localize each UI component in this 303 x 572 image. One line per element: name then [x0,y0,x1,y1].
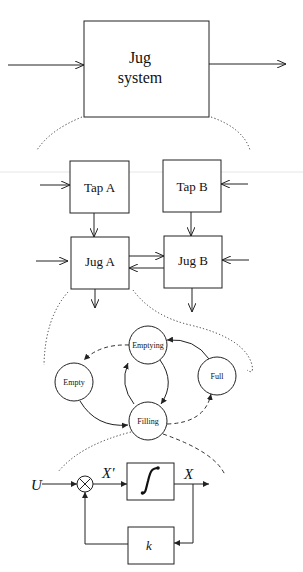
tap-a-label: Tap A [84,180,116,195]
state-filling-label: Filling [137,417,158,426]
k-to-sum-arrow [85,492,128,544]
level-3-state-machine: Emptying Empty Full Filling [55,326,236,440]
state-emptying-label: Emptying [132,341,164,350]
level-2-components: Tap A Tap B Jug A Jug B [36,160,249,312]
zoom-bracket-2-left [44,292,68,365]
emptying-to-filling-transition [160,360,168,404]
filling-to-emptying-transition [125,363,134,404]
gain-k-label: k [146,538,152,553]
zoom-bracket-3-left [58,432,131,472]
level-1-jug-system: Jug system [8,21,286,117]
integrator-block [127,463,174,500]
state-full-label: Full [211,372,225,381]
jug-a-label: Jug A [85,254,116,269]
hierarchical-jug-diagram: Jug system Tap A Tap B Jug A Jug B [0,0,303,572]
derivative-x-prime-label: X' [101,465,115,481]
output-x-label: X [183,466,194,482]
empty-to-filling-transition [80,401,128,425]
jug-b-label: Jug B [178,253,208,268]
zoom-bracket-1-right [211,117,250,150]
feedback-to-k-arrow [174,484,193,543]
jug-system-label-line2: system [118,69,163,87]
input-u-label: U [31,477,43,493]
tap-b-label: Tap B [176,179,208,194]
full-to-emptying-transition [167,340,209,359]
summing-junction-icon [77,476,93,492]
zoom-bracket-1-left [37,117,82,150]
emptying-to-empty-transition [84,345,129,360]
level-4-block-diagram: U X' X k [31,463,209,564]
state-empty-label: Empty [63,378,84,387]
filling-to-full-transition [167,394,211,424]
jug-system-label-line1: Jug [129,49,151,67]
